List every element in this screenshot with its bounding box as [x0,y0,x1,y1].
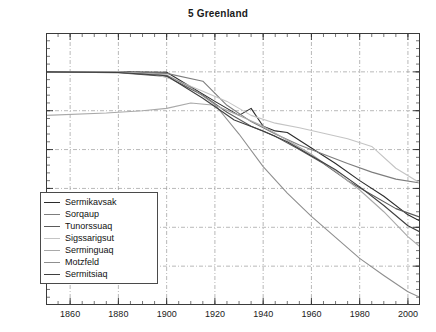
legend-item-label: Sigssarigsut [65,232,114,244]
legend-swatch-icon [44,202,60,203]
x-axis-tick-label: 1860 [60,309,80,319]
x-axis-tick-label: 2000 [398,309,418,319]
legend-item-sermitsiaq[interactable]: Sermitsiaq [44,268,153,280]
legend-item-sorqaup[interactable]: Sorqaup [44,208,153,220]
legend[interactable]: SermikavsakSorqaupTunorssuaqSigssarigsut… [40,192,158,284]
x-axis-tick-label: 1920 [205,309,225,319]
legend-item-motzfeld[interactable]: Motzfeld [44,256,153,268]
legend-swatch-icon [44,226,60,227]
legend-item-label: Sermikavsak [65,196,117,208]
legend-item-sigssarigsut[interactable]: Sigssarigsut [44,232,153,244]
legend-swatch-icon [44,214,60,215]
x-axis-tick-label: 1900 [157,309,177,319]
x-axis-tick-label: 1940 [253,309,273,319]
x-axis-tick-label: 1960 [301,309,321,319]
x-axis-tick-label: 1880 [108,309,128,319]
legend-item-tunorssuaq[interactable]: Tunorssuaq [44,220,153,232]
legend-item-label: Tunorssuaq [65,220,112,232]
legend-swatch-icon [44,250,60,251]
legend-item-sermikavsak[interactable]: Sermikavsak [44,196,153,208]
legend-item-label: Sermitsiaq [65,268,108,280]
legend-swatch-icon [44,274,60,275]
legend-item-label: Serminguaq [65,244,114,256]
x-axis-tick-label: 1980 [350,309,370,319]
legend-swatch-icon [44,238,60,239]
chart-figure: 5 Greenland 5000-500-1000-1500-2000-2500… [0,0,436,332]
page-title: 5 Greenland [0,8,436,19]
legend-item-serminguaq[interactable]: Serminguaq [44,244,153,256]
legend-swatch-icon [44,262,60,263]
legend-item-label: Sorqaup [65,208,99,220]
legend-item-label: Motzfeld [65,256,99,268]
